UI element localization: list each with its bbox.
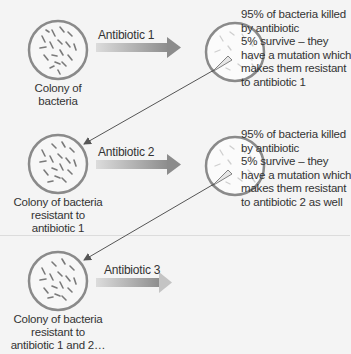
colony-1-label: Colony of bacteria	[18, 82, 98, 108]
outcome-1-text: 95% of bacteria killed by antibiotic 5% …	[241, 8, 351, 89]
colony-2-dish	[29, 135, 87, 193]
antibiotic-2-label: Antibiotic 2	[98, 145, 154, 159]
connector-1-arrow	[84, 70, 214, 144]
outcome-2-text: 95% of bacteria killed by antibiotic 5% …	[241, 128, 351, 209]
antibiotic-1-label: Antibiotic 1	[98, 28, 154, 42]
colony-3-dish	[29, 252, 87, 310]
colony-1-dish	[29, 21, 87, 79]
colony-3-label: Colony of bacteria resistant to antibiot…	[4, 313, 112, 352]
colony-2-label: Colony of bacteria resistant to antibiot…	[6, 196, 110, 235]
antibiotic-3-label: Antibiotic 3	[104, 263, 160, 277]
